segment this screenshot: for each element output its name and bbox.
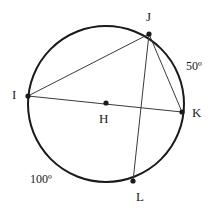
arc-label-jk: 50º xyxy=(186,60,202,72)
point-dot-h xyxy=(103,100,108,105)
point-label-h: H xyxy=(99,112,108,125)
arc-label-il: 100º xyxy=(30,173,52,185)
point-label-j: J xyxy=(146,10,151,23)
point-dot-l xyxy=(130,178,135,183)
point-dot-j xyxy=(146,31,151,36)
point-dot-i xyxy=(25,93,30,98)
point-label-i: I xyxy=(12,88,16,101)
geometry-figure: I J K L H 50º 100º xyxy=(0,0,221,216)
point-label-k: K xyxy=(192,106,201,119)
chord-i-j xyxy=(28,34,149,96)
point-label-l: L xyxy=(136,190,144,203)
point-dot-k xyxy=(179,109,184,114)
